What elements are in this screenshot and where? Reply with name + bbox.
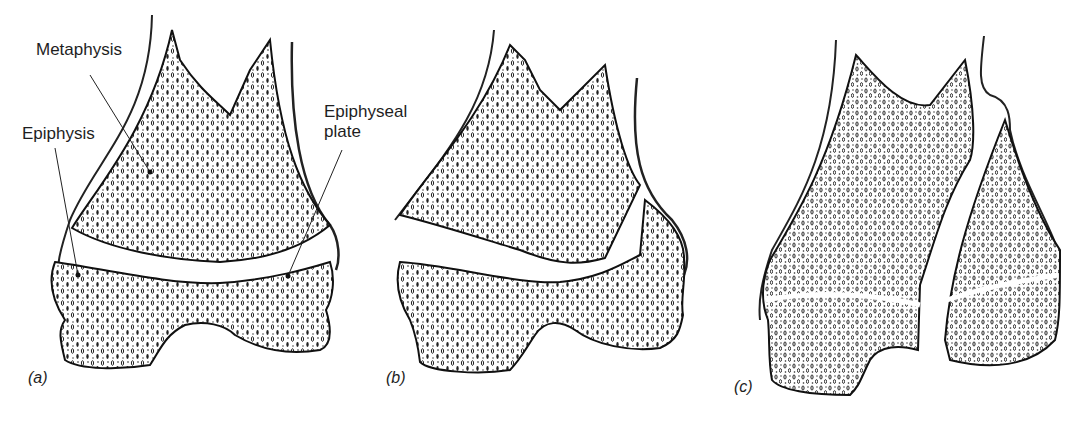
panel-a-tag: (a) bbox=[28, 369, 48, 387]
label-epiphyseal-plate-line2: plate bbox=[324, 122, 361, 142]
epiphysis-region bbox=[52, 262, 333, 368]
panel-c-tag: (c) bbox=[734, 378, 753, 396]
metaphysis-region bbox=[400, 45, 640, 263]
medial-fragment bbox=[763, 55, 973, 395]
panel-b-drawing bbox=[395, 30, 687, 372]
label-epiphyseal-plate-line1: Epiphyseal bbox=[324, 102, 407, 122]
panel-a-drawing bbox=[52, 15, 342, 368]
label-metaphysis: Metaphysis bbox=[36, 40, 122, 60]
label-epiphysis: Epiphysis bbox=[22, 124, 95, 144]
panel-b-tag: (b) bbox=[386, 369, 406, 387]
panel-c-drawing bbox=[760, 36, 1061, 395]
bone-illustrations bbox=[0, 0, 1083, 431]
